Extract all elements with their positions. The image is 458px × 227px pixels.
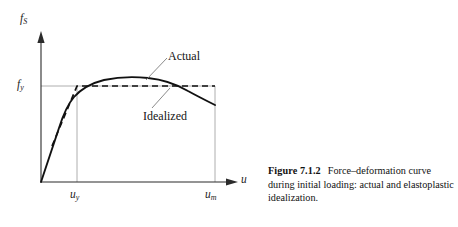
figure-number: Figure 7.1.2	[268, 165, 321, 176]
x-tick-label-um: um	[205, 189, 217, 202]
x-axis-label: u	[241, 174, 247, 186]
y-axis-label: fS	[20, 13, 27, 26]
y-axis-arrowhead	[37, 31, 44, 43]
actual-leader-line	[146, 58, 167, 80]
x-axis-arrowhead	[226, 178, 238, 185]
caption-line-1-text: Force–deformation	[328, 165, 406, 176]
x-tick-label-uy-subscript: y	[76, 193, 80, 202]
x-tick-label-um-subscript: m	[211, 193, 217, 202]
x-axis-label-base: u	[241, 173, 247, 185]
x-tick-label-uy: uy	[70, 189, 79, 202]
y-tick-label-subscript: y	[20, 83, 24, 92]
force-deformation-plot	[0, 0, 262, 227]
y-axis-label-subscript: S	[23, 17, 27, 26]
annotation-actual: Actual	[168, 50, 200, 62]
figure-caption: Figure 7.1.2Force–deformation curve duri…	[268, 164, 454, 205]
annotation-idealized: Idealized	[143, 110, 187, 122]
y-tick-label-fy: fy	[17, 79, 24, 92]
idealized-leader-line	[152, 88, 170, 108]
actual-solid-curve	[41, 77, 215, 182]
figure-container: fS fy u uy um Actual Idealized Figure 7.…	[0, 0, 458, 227]
